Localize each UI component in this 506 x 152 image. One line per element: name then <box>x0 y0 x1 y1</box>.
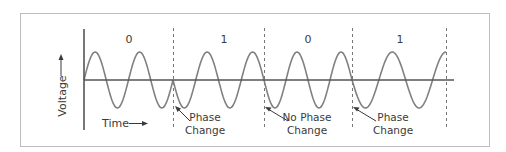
annotation-line1: Phase <box>377 111 408 123</box>
x-axis-label: Time <box>101 117 129 130</box>
y-axis-label: Voltage <box>56 75 69 116</box>
annotation-line2: Change <box>287 124 327 136</box>
annotation-line2: Change <box>185 124 225 136</box>
annotation-line2: Change <box>373 124 413 136</box>
bit-label: 0 <box>126 33 133 46</box>
bit-label: 1 <box>397 33 404 46</box>
annotation-line1: No Phase <box>283 111 332 123</box>
psk-diagram: 0 1 0 1 Voltage Time Phase Change No Pha… <box>0 0 506 152</box>
annotation-line1: Phase <box>189 111 220 123</box>
bit-label: 1 <box>221 33 228 46</box>
bit-label: 0 <box>305 33 312 46</box>
